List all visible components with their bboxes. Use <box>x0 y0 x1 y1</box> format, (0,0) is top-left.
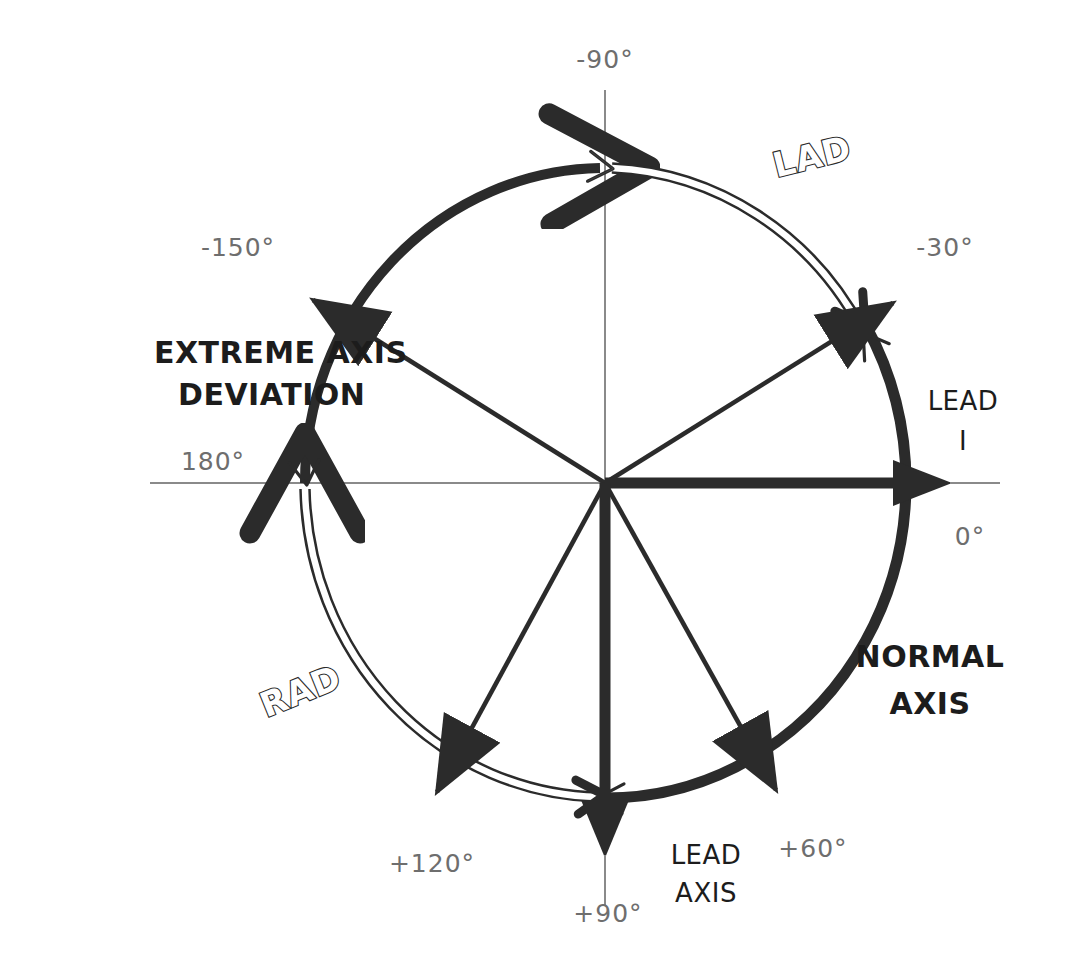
degree-label-plus-90: +90° <box>573 899 642 928</box>
label-lead-axis-line1: LEAD <box>671 840 742 870</box>
label-lead-one-line1: LEAD <box>928 386 999 416</box>
label-extreme-axis-deviation-line1: EXTREME AXIS <box>154 335 408 370</box>
degree-label-minus-90: -90° <box>576 45 633 74</box>
label-normal-axis-line1: NORMAL <box>856 639 1005 674</box>
label-lad: LAD <box>769 127 856 185</box>
degree-label-minus-150: -150° <box>201 233 275 262</box>
degree-label-180: 180° <box>181 447 245 476</box>
lad-arc <box>588 151 890 361</box>
label-lead-one-line2: I <box>959 426 967 456</box>
ray-lead-axis <box>581 483 629 892</box>
hexaxial-axis-diagram: -90° -150° -30° 180° 0° +120° +90° +60° … <box>0 0 1076 974</box>
rad-arc <box>289 460 624 814</box>
ray-plus-120 <box>437 483 605 792</box>
ray-lead-i-arrowhead <box>893 460 952 506</box>
label-lead-axis-line2: AXIS <box>675 878 737 908</box>
ray-minus-30 <box>605 303 893 483</box>
label-rad: RAD <box>254 657 347 725</box>
degree-label-plus-120: +120° <box>389 849 475 878</box>
ray-plus-60 <box>605 483 776 790</box>
diagram-canvas: -90° -150° -30° 180° 0° +120° +90° +60° … <box>0 0 1076 974</box>
degree-label-0: 0° <box>955 522 985 551</box>
degree-label-minus-30: -30° <box>916 233 973 262</box>
ray-lead-i <box>605 460 985 506</box>
label-extreme-axis-deviation-line2: DEVIATION <box>178 377 365 412</box>
label-normal-axis-line2: AXIS <box>889 686 970 721</box>
ray-lead-axis-arrowhead <box>581 800 629 858</box>
extreme-axis-deviation-arc <box>305 168 600 483</box>
degree-label-plus-60: +60° <box>778 834 847 863</box>
